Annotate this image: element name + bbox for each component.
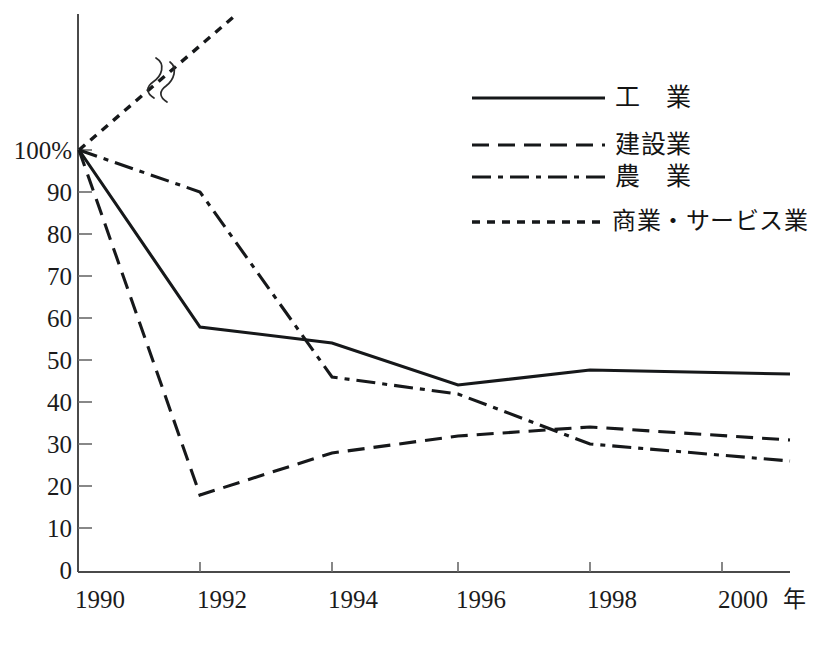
y-tick-label-80: 80	[47, 221, 72, 248]
x-tick-label-2000: 2000	[718, 586, 768, 613]
y-tick-label-60: 60	[47, 305, 72, 332]
x-tick-marks	[200, 562, 722, 572]
legend-label-agriculture: 農 業	[615, 164, 692, 189]
legend-label-industry: 工 業	[615, 85, 692, 110]
legend-label-construction: 建設業	[615, 132, 692, 157]
x-tick-label-1996: 1996	[456, 586, 506, 613]
x-tick-label-1990: 1990	[75, 586, 125, 613]
line-chart-figure: 100% 90 80 70 60 50 40 30 20 10 0 1990 1…	[0, 0, 835, 645]
y-tick-label-30: 30	[47, 431, 72, 458]
y-tick-label-100: 100%	[14, 137, 72, 164]
y-tick-label-20: 20	[47, 473, 72, 500]
x-tick-label-1998: 1998	[587, 586, 637, 613]
y-tick-label-40: 40	[47, 389, 72, 416]
y-tick-marks	[78, 150, 92, 528]
y-tick-label-0: 0	[60, 557, 73, 584]
x-axis-unit-label: 年	[783, 586, 806, 612]
y-tick-label-50: 50	[47, 347, 72, 374]
series-line-construction	[79, 150, 790, 495]
x-tick-label-1992: 1992	[197, 586, 247, 613]
legend-label-commerce-service: 商業・サービス業	[612, 209, 808, 233]
chart-plot-area: 100% 90 80 70 60 50 40 30 20 10 0 1990 1…	[0, 0, 835, 645]
y-tick-label-10: 10	[47, 515, 72, 542]
x-tick-label-1994: 1994	[328, 586, 379, 613]
legend-sample-lines	[472, 98, 605, 222]
y-tick-label-90: 90	[47, 179, 72, 206]
series-line-commerce-service	[79, 13, 238, 150]
y-tick-label-70: 70	[47, 263, 72, 290]
